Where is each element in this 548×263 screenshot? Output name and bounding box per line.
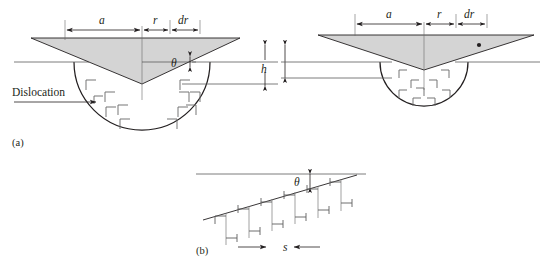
dimension-a-right: a (355, 8, 422, 36)
dislocation-symbol (284, 191, 295, 199)
panel-b-label: (b) (196, 245, 209, 257)
r-label-right: r (437, 8, 442, 20)
wedge-indenter-right (318, 35, 534, 70)
a-label-right: a (386, 8, 392, 20)
a-label-left: a (99, 14, 105, 26)
dislocation-symbol (261, 198, 272, 206)
dislocation-symbol (249, 227, 260, 235)
panel-b-diagram: θ (196, 174, 366, 253)
s-label: s (283, 241, 288, 253)
figure-root: θ a r dr (0, 0, 548, 263)
panel-a-label: (a) (12, 137, 24, 149)
dislocation-symbols-left (86, 80, 200, 129)
dislocation-symbol (341, 199, 352, 207)
dislocation-symbol (411, 80, 419, 88)
dislocation-symbol (330, 178, 341, 186)
theta-label-left: θ (171, 57, 177, 69)
dislocation-symbol (429, 80, 437, 88)
dimension-h: h (261, 45, 285, 86)
dislocation-symbols-right (399, 70, 450, 106)
dr-label-left: dr (178, 14, 189, 26)
dislocation-symbol (399, 90, 407, 98)
dislocation-symbol (295, 213, 306, 221)
point-marker-dot (477, 43, 481, 47)
dislocation-symbols-b (215, 178, 352, 242)
dimension-r-right: r (426, 8, 456, 28)
dislocation-symbol (272, 220, 283, 228)
dr-label-right: dr (464, 8, 475, 20)
dislocation-symbol (94, 96, 103, 104)
dislocation-symbol (226, 234, 237, 242)
dimension-r-left: r (144, 14, 170, 34)
dislocation-symbol (106, 107, 116, 117)
dimension-dr-right: dr (458, 8, 487, 28)
dislocation-symbol (399, 70, 407, 78)
dislocation-symbol (318, 206, 329, 214)
slip-planes-b (226, 179, 341, 245)
dislocation-symbol (178, 107, 188, 117)
dislocation-symbol (105, 92, 115, 102)
dimension-dr-left: dr (172, 14, 200, 34)
dislocation-symbol (179, 92, 189, 102)
dislocation-symbol (238, 205, 249, 213)
r-label-left: r (153, 14, 158, 26)
dislocation-symbol (416, 88, 424, 96)
dislocation-symbol (307, 185, 318, 193)
dislocation-symbol (118, 105, 128, 115)
dislocation-symbol (86, 80, 96, 90)
dislocation-symbol (441, 70, 449, 78)
dislocation-symbol (442, 90, 450, 98)
scientific-figure: θ a r dr (0, 0, 548, 263)
dimension-a-left: a (65, 14, 140, 40)
dislocation-label: Dislocation (12, 86, 65, 98)
theta-label-b: θ (294, 176, 300, 188)
panel-a-left-diagram: θ a r dr (12, 14, 278, 130)
dislocation-symbol (180, 80, 190, 90)
dislocation-symbol (167, 119, 177, 129)
panel-a-right-diagram: a r dr (281, 8, 540, 106)
dimension-s: s (238, 241, 320, 253)
h-label: h (261, 63, 267, 75)
